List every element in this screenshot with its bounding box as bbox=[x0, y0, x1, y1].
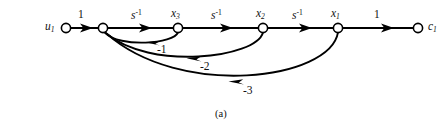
feedback-edges-group bbox=[105, 32, 338, 75]
node-x1[interactable] bbox=[333, 23, 342, 32]
figure-caption: (a) bbox=[215, 108, 227, 119]
gain-label-u1-to-sum: 1 bbox=[78, 9, 84, 21]
gain-label-x3-to-sum-feedback: -1 bbox=[157, 44, 167, 56]
node-label-x1: x1 bbox=[331, 8, 340, 20]
gain-label-x1-to-c1: 1 bbox=[374, 9, 380, 21]
node-x2[interactable] bbox=[258, 23, 267, 32]
gain-label-x1-to-sum-feedback: -3 bbox=[243, 85, 253, 97]
gain-label-x2-to-sum-feedback: -2 bbox=[200, 61, 210, 73]
gain-label-sum-to-x3: s-1 bbox=[131, 9, 142, 21]
node-c1[interactable] bbox=[413, 23, 422, 32]
node-x3[interactable] bbox=[173, 23, 182, 32]
node-label-u1: u1 bbox=[45, 21, 55, 33]
node-u1[interactable] bbox=[61, 23, 70, 32]
gain-label-x2-to-x1: s-1 bbox=[292, 9, 303, 21]
node-label-x3: x3 bbox=[171, 8, 180, 20]
node-label-x2: x2 bbox=[256, 8, 265, 20]
gain-label-x3-to-x2: s-1 bbox=[211, 9, 222, 21]
node-label-c1: c1 bbox=[428, 21, 437, 33]
arrowhead-x1-to-sum-feedback bbox=[229, 79, 244, 84]
signal-flow-graph-figure: u1 x3 x2 x1 c1 1 s-1 s-1 s-1 1 -1 -2 -3 … bbox=[0, 0, 448, 129]
node-sum[interactable] bbox=[98, 23, 107, 32]
edge-x2-to-sum-feedback bbox=[105, 32, 263, 56]
